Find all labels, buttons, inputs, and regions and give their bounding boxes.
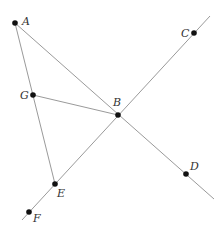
label-a: A — [21, 15, 30, 28]
points: ABCDEFG — [12, 15, 199, 225]
segment-fc — [22, 16, 210, 220]
label-b: B — [112, 96, 121, 109]
point-e — [52, 181, 58, 187]
geometry-diagram: ABCDEFG — [0, 0, 224, 228]
label-d: D — [189, 160, 199, 173]
label-c: C — [181, 27, 190, 40]
point-b — [115, 112, 121, 118]
label-f: F — [32, 212, 41, 225]
segments — [15, 16, 214, 220]
point-d — [183, 171, 189, 177]
point-a — [12, 20, 18, 26]
segment-gb — [33, 95, 118, 115]
point-f — [26, 209, 32, 215]
segment-ae — [15, 23, 55, 184]
label-g: G — [20, 89, 29, 102]
point-c — [191, 30, 197, 36]
point-g — [30, 92, 36, 98]
label-e: E — [56, 187, 65, 200]
